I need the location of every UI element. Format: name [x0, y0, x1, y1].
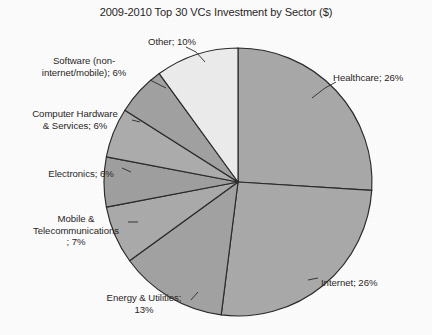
slice-label-software: Software (non- internet/mobile); 6% [18, 55, 150, 78]
slice-label-mobile-telecom: Mobile & Telecommunications ; 7% [14, 213, 138, 248]
slice-label-other: Other; 10% [148, 36, 244, 48]
slice-label-internet: Internet; 26% [321, 277, 425, 289]
slice-label-computer-hardware: Computer Hardware & Services; 6% [6, 108, 144, 131]
slice-label-healthcare: Healthcare; 26% [333, 72, 429, 84]
slice-label-electronics: Electronics; 6% [24, 168, 138, 180]
chart-canvas: 2009-2010 Top 30 VCs Investment by Secto… [0, 0, 432, 335]
slice-label-energy-utilities: Energy & Utilities; 13% [76, 292, 212, 315]
pie-slice-group [104, 48, 372, 316]
pie-slice-healthcare [238, 48, 372, 190]
pie-slice-internet [221, 182, 372, 316]
